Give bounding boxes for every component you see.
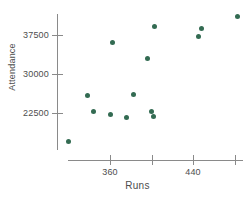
y-axis-tick [52, 35, 63, 36]
data-point [124, 115, 129, 120]
data-point [66, 139, 71, 144]
x-axis-tick [235, 155, 236, 165]
data-point [110, 40, 115, 45]
y-axis-tick-label: 30000 [23, 69, 49, 79]
data-point [145, 56, 150, 61]
x-axis-tick-label: 440 [185, 167, 201, 177]
scatter-plot-figure: 375003000022500 360440 Attendance Runs [0, 0, 249, 197]
x-axis-tick [193, 155, 194, 165]
plot-area: 375003000022500 360440 [0, 0, 249, 197]
x-axis-line [68, 160, 243, 161]
data-point [131, 92, 136, 97]
x-axis-tick [152, 155, 153, 165]
y-axis-tick-label: 37500 [23, 30, 49, 40]
data-point [91, 109, 96, 114]
y-axis-tick [52, 113, 63, 114]
data-point [151, 114, 156, 119]
y-axis-title: Attendance [7, 27, 17, 107]
x-axis-tick [110, 155, 111, 165]
x-axis-tick-label: 360 [102, 167, 118, 177]
x-axis-title-text: Runs [125, 180, 150, 191]
data-point [85, 93, 90, 98]
data-point [235, 14, 240, 19]
y-axis-tick [52, 74, 63, 75]
data-point [199, 26, 204, 31]
data-point [108, 112, 113, 117]
x-axis-title: Runs [0, 180, 249, 191]
data-point [152, 24, 157, 29]
data-point [196, 34, 201, 39]
y-axis-tick-label: 22500 [23, 108, 49, 118]
